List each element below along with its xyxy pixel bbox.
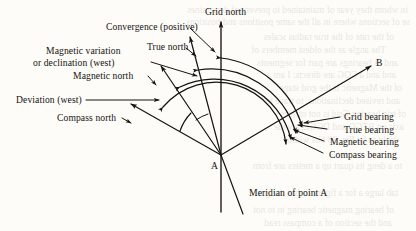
label-point-a: A <box>211 160 218 171</box>
label-compass-north: Compass north <box>57 112 116 123</box>
arc-magnetic-bearing <box>180 79 291 139</box>
arc-magnetic-variation-small <box>196 114 208 120</box>
leader-compass-north <box>122 118 131 123</box>
leader-magnetic-variation <box>151 62 197 76</box>
label-magnetic-bearing: Magnetic bearing <box>330 136 399 147</box>
label-meridian-of-point-a: Meridian of point A <box>249 187 327 198</box>
label-grid-north: Grid north <box>205 6 246 17</box>
label-point-b: B <box>376 57 383 68</box>
leader-magnetic-north <box>148 76 156 85</box>
leader-magnetic-bearing <box>294 130 324 141</box>
label-compass-bearing: Compass bearing <box>329 149 397 160</box>
arc-deviation <box>180 113 191 131</box>
diagram-root: in whom they year of maintained to preve… <box>0 0 416 231</box>
label-magnetic-variation-line2: or declination (west) <box>33 57 115 68</box>
label-deviation: Deviation (west) <box>16 94 82 105</box>
arc-compass-bearing <box>163 82 286 144</box>
label-true-north: True north <box>147 41 188 52</box>
leader-true-bearing <box>298 125 327 129</box>
leader-compass-bearing <box>290 137 323 153</box>
label-convergence: Convergence (positive) <box>106 21 198 32</box>
label-magnetic-north: Magnetic north <box>73 70 133 81</box>
ray-compass-north <box>131 104 221 155</box>
leader-grid-bearing <box>304 117 340 123</box>
label-true-bearing: True bearing <box>344 124 394 135</box>
label-magnetic-variation-line1: Magnetic variation <box>46 45 121 56</box>
line-meridian-of-point-a <box>221 155 243 214</box>
label-grid-bearing: Grid bearing <box>344 111 394 122</box>
